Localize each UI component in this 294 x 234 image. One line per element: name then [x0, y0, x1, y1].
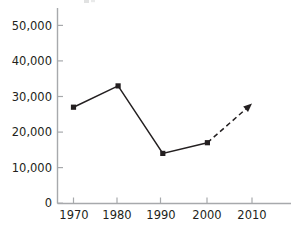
y-axis: 50,000 40,000 30,000 20,000 10,000 0 [12, 8, 63, 210]
y-axis-label-30000: 30,000 [12, 90, 52, 104]
y-axis-label-40000: 40,000 [12, 54, 52, 68]
x-axis-label-1990: 1990 [146, 208, 175, 222]
x-axis-label-2000: 2000 [192, 208, 221, 222]
actual-line [74, 86, 208, 153]
chart-canvas: 50,000 40,000 30,000 20,000 10,000 0 197… [0, 0, 294, 234]
projection-arrowhead [243, 104, 252, 112]
y-axis-label-0: 0 [45, 196, 52, 210]
data-point-2000 [205, 140, 210, 145]
cropped-title-remnant [84, 0, 95, 3]
x-axis-label-1970: 1970 [59, 208, 88, 222]
projected-line [207, 107, 248, 143]
line-chart: 50,000 40,000 30,000 20,000 10,000 0 197… [0, 0, 294, 234]
x-axis: 1970 1980 1990 2000 2010 [58, 198, 292, 223]
y-axis-label-50000: 50,000 [12, 19, 52, 33]
data-point-1980 [116, 83, 121, 88]
y-axis-label-20000: 20,000 [12, 125, 52, 139]
series-projected [207, 104, 252, 143]
y-axis-label-10000: 10,000 [12, 161, 52, 175]
data-point-1990 [160, 151, 165, 156]
x-axis-label-1980: 1980 [102, 208, 131, 222]
series-actual [74, 86, 208, 153]
x-axis-label-2010: 2010 [237, 208, 266, 222]
data-point-1970 [71, 105, 76, 110]
